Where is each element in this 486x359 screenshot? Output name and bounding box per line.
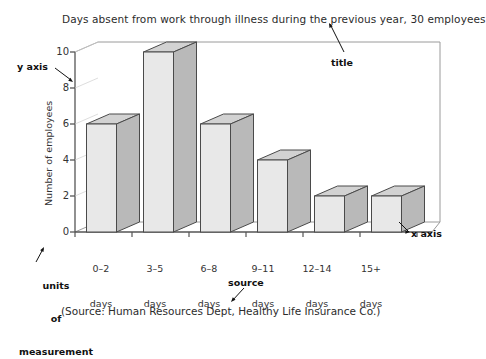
bar-front-5: [372, 196, 402, 232]
bar-side-0: [117, 114, 140, 232]
annotation-units-line-3: measurement: [6, 346, 106, 357]
bar-group-5: [372, 186, 425, 232]
x-tick-range-2: 6–8: [183, 263, 235, 275]
x-tick-label-1: 3–5 days: [129, 240, 181, 332]
bar-group-2: [201, 114, 254, 232]
x-tick-label-5: 15+ days: [345, 240, 397, 332]
y-tick-label-0: 0: [53, 226, 69, 237]
y-gridline-10: [75, 42, 98, 52]
bar-front-0: [87, 124, 117, 232]
x-tick-range-5: 15+: [345, 263, 397, 275]
annotation-source: source: [228, 277, 264, 288]
bar-front-1: [144, 52, 174, 232]
annotation-y-axis-leader: [55, 68, 71, 80]
annotation-x-axis: x axis: [411, 228, 442, 239]
annotation-units-line-1: units: [6, 280, 106, 291]
x-tick-range-4: 12–14: [291, 263, 343, 275]
x-tick-range-1: 3–5: [129, 263, 181, 275]
bar-side-3: [288, 150, 311, 232]
bar-front-3: [258, 160, 288, 232]
bar-group-3: [258, 150, 311, 232]
bar-front-2: [201, 124, 231, 232]
bar-side-2: [231, 114, 254, 232]
annotation-title: title: [331, 57, 353, 68]
x-tick-range-3: 9–11: [237, 263, 289, 275]
y-tick-label-6: 6: [53, 118, 69, 129]
bar-side-1: [174, 42, 197, 232]
bar-group-4: [315, 186, 368, 232]
annotation-units-arrow: [40, 247, 44, 252]
y-gridline-8: [75, 78, 98, 88]
bar-front-4: [315, 196, 345, 232]
y-tick-label-2: 2: [53, 190, 69, 201]
chart-title: Days absent from work through illness du…: [62, 13, 486, 25]
y-tick-label-10: 10: [53, 46, 69, 57]
annotation-y-axis: y axis: [17, 61, 48, 72]
y-tick-label-4: 4: [53, 154, 69, 165]
bar-group-1: [144, 42, 197, 232]
bar-group-0: [87, 114, 140, 232]
annotation-title-leader: [330, 24, 344, 52]
source-caption: (Source: Human Resources Dept, Healthy L…: [61, 305, 380, 317]
y-tick-label-8: 8: [53, 82, 69, 93]
x-tick-label-4: 12–14 days: [291, 240, 343, 332]
